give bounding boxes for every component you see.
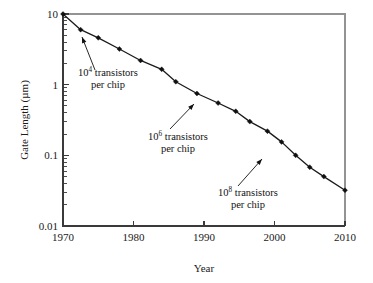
x-axis-title: Year — [194, 262, 215, 274]
y-tick-label-0.01: 0.01 — [39, 220, 58, 232]
annot-1e6-line1-suffix: transistors — [162, 131, 208, 142]
chart-figure: 19701980199020002010 1010.10.01 104 tran… — [0, 0, 373, 283]
annot-1e6-line2: per chip — [161, 143, 195, 154]
y-tick-label-10: 10 — [47, 8, 59, 20]
x-tick-label-1990: 1990 — [193, 231, 216, 243]
gate-length-vs-year-chart: 19701980199020002010 1010.10.01 104 tran… — [0, 0, 373, 283]
annot-1e8-line1-suffix: transistors — [232, 187, 278, 198]
annot-1e8-line1: 108 transistors — [218, 186, 278, 198]
y-tick-label-1: 1 — [53, 79, 59, 91]
x-tick-label-2010: 2010 — [334, 231, 357, 243]
y-tick-label-0.1: 0.1 — [44, 149, 58, 161]
annot-1e8-line2: per chip — [231, 199, 265, 210]
y-axis-title: Gate Length (µm) — [18, 80, 31, 160]
x-tick-label-1970: 1970 — [52, 231, 75, 243]
x-tick-label-1980: 1980 — [123, 231, 146, 243]
x-tick-label-2000: 2000 — [264, 231, 287, 243]
annot-1e4-line1-suffix: transistors — [92, 67, 138, 78]
annot-1e4-line2: per chip — [91, 79, 125, 90]
annot-1e6-line1: 106 transistors — [148, 130, 208, 142]
annot-1e4-line1: 104 transistors — [78, 66, 138, 78]
